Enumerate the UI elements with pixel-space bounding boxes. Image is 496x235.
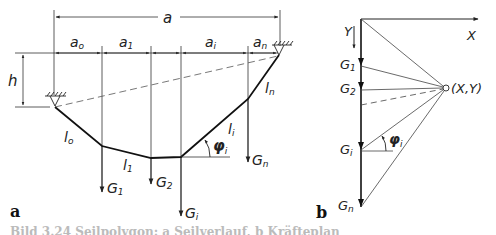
panel-b: X Y (X,Y) φi G1 G2 Gi Gn b <box>316 19 482 222</box>
force-g1-label: G1 <box>340 57 356 73</box>
chord-dashed-line <box>55 56 278 107</box>
segment-l1: l1 <box>123 157 133 174</box>
force-gi-label: Gi <box>340 142 353 158</box>
rope-polygon-figure: a ao a1 ai an h <box>0 0 496 235</box>
dim-a1: a1 <box>119 34 133 51</box>
angle-phi-label: φi <box>213 137 228 156</box>
angle-arc-b-icon <box>382 136 386 151</box>
force-gn-label: Gn <box>338 198 354 214</box>
panel-a: a ao a1 ai an h <box>8 9 293 222</box>
rope-polygon <box>55 55 279 158</box>
panel-a-label: a <box>10 202 20 221</box>
sub-dimensions <box>15 46 278 158</box>
pole-point-icon <box>443 85 449 91</box>
dimension-a-label: a <box>163 9 172 27</box>
dim-ai: ai <box>205 34 217 51</box>
segment-l0: lo <box>64 129 74 146</box>
pole-rays <box>361 19 444 207</box>
dim-an: an <box>253 34 268 51</box>
left-support-icon <box>45 92 66 106</box>
load-gi-label: Gi <box>185 205 199 222</box>
load-g1-label: G1 <box>107 180 124 197</box>
pole-label: (X,Y) <box>451 81 482 96</box>
load-g2-label: G2 <box>156 174 173 191</box>
segment-ln: ln <box>265 80 275 97</box>
y-axis-label: Y <box>344 24 353 39</box>
load-gn-label: Gn <box>252 152 269 169</box>
dim-a0: ao <box>70 34 85 51</box>
force-g2-label: G2 <box>340 81 356 97</box>
segment-li: li <box>228 121 235 138</box>
x-axis-label: X <box>466 28 477 43</box>
panel-b-label: b <box>316 203 327 222</box>
angle-arc-icon <box>205 140 210 157</box>
angle-phi-b-label: φi <box>389 131 403 149</box>
dimension-h-label: h <box>8 72 18 90</box>
figure-caption: Bild 3.24 Seilpolygon: a Seilverlauf, b … <box>10 225 340 235</box>
dimension-h <box>15 55 50 107</box>
